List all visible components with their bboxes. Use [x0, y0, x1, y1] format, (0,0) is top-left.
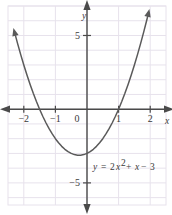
y-tick-label-0: 5	[75, 30, 80, 41]
x-tick-label-2: 0	[75, 113, 80, 124]
x-tick-label-0: −2	[18, 113, 29, 124]
equation-minus: −	[141, 162, 146, 172]
equation-equals: =	[101, 162, 106, 172]
y-tick-label-1: −5	[69, 177, 80, 188]
equation-linear-term: x	[134, 162, 140, 172]
x-tick-label-1: −1	[50, 113, 61, 124]
equation-coefficient: 2	[110, 162, 115, 172]
equation-plus: +	[126, 162, 131, 172]
y-axis-label: y	[81, 11, 87, 21]
x-tick-label-3: 1	[116, 113, 121, 124]
coordinate-plane: −2−10125−5 x y y = 2 x 2 + x − 3	[0, 0, 172, 215]
equation-lhs: y	[92, 162, 98, 172]
graph-figure: −2−10125−5 x y y = 2 x 2 + x − 3	[0, 0, 172, 215]
equation-constant: 3	[150, 162, 155, 172]
x-tick-label-4: 2	[148, 113, 153, 124]
x-axis-label: x	[164, 116, 170, 126]
